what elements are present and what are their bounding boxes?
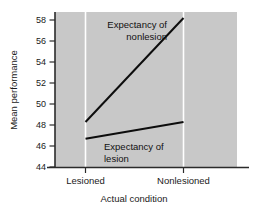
y-tick-label: 48 [36,120,46,130]
y-axis-ticks [50,20,56,167]
chart-canvas: 58 56 54 52 50 48 46 44 Lesioned Nonlesi… [0,0,253,210]
y-tick-label: 46 [36,141,46,151]
annotation-lesion-line2: lesion [104,153,129,164]
y-tick-label: 44 [36,162,46,172]
y-axis-tick-labels: 58 56 54 52 50 48 46 44 [36,15,46,172]
x-axis-tick-labels: Lesioned Nonlesioned [66,175,210,186]
interaction-chart-figure: 58 56 54 52 50 48 46 44 Lesioned Nonlesi… [0,0,253,210]
x-axis-ticks [86,168,184,174]
y-tick-label: 58 [36,15,46,25]
y-tick-label: 54 [36,57,46,67]
x-tick-label-nonlesioned: Nonlesioned [157,175,210,186]
x-tick-label-lesioned: Lesioned [66,175,105,186]
annotation-lesion-line1: Expectancy of [104,141,164,152]
y-axis-title: Mean performance [8,50,19,130]
annotation-nonlesion-line2: nonlesion [126,31,167,42]
y-tick-label: 56 [36,36,46,46]
y-tick-label: 52 [36,78,46,88]
y-tick-label: 50 [36,99,46,109]
annotation-nonlesion-line1: Expectancy of [107,19,167,30]
x-axis-title: Actual condition [100,193,167,204]
